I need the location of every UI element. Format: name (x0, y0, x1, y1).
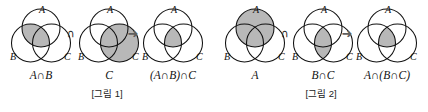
expression-label-a-inter-bc: A∩(B∩C) (342, 68, 428, 82)
circle-label-b: B (10, 51, 16, 62)
circle-label-c: C (132, 51, 139, 62)
expression-label-a-inter-b-inter-c: (A∩B)∩C (128, 68, 218, 82)
venn-panel-a-inter-b-inter-c: A B C (140, 4, 206, 66)
circle-label-b: B (224, 51, 230, 62)
circle-label-a: A (252, 4, 260, 15)
circle-label-b: B (356, 51, 362, 62)
circle-label-c: C (410, 51, 417, 62)
circle-label-b: B (78, 51, 84, 62)
circle-label-c: C (346, 51, 353, 62)
circle-label-c: C (196, 51, 203, 62)
circle-label-a: A (384, 4, 392, 15)
figure-2-caption: [그림 2] (214, 88, 428, 100)
figure-2-group: A B C ∩ A B C ➜ (214, 0, 428, 112)
circle-label-a: A (38, 4, 46, 15)
circle-label-a: A (106, 4, 114, 15)
arrow-icon-1: ➜ (126, 27, 140, 40)
circle-label-a: A (170, 4, 178, 15)
venn-figure-root: A B C ∩ A B C ➜ (0, 0, 428, 112)
circle-label-c: C (278, 51, 285, 62)
circle-label-c: C (64, 51, 71, 62)
figure-1-caption: [그림 1] (0, 88, 214, 100)
arrow-icon-2: ➜ (340, 27, 354, 40)
circle-label-a: A (320, 4, 328, 15)
venn-panel-a-inter-bc: A B C (354, 4, 420, 66)
figure-1-group: A B C ∩ A B C ➜ (0, 0, 214, 112)
circle-label-b: B (142, 51, 148, 62)
circle-label-b: B (292, 51, 298, 62)
